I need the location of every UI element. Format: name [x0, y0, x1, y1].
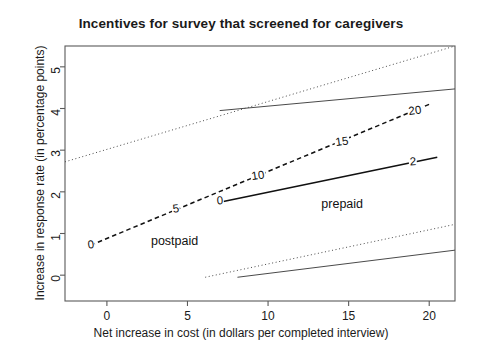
point-label-prepaid-2: 2: [408, 156, 417, 168]
point-label-postpaid-15: 15: [334, 135, 350, 148]
point-label-postpaid-0: 0: [86, 239, 96, 252]
axis-ticks: [60, 67, 429, 306]
x-tick-label: 10: [261, 309, 274, 323]
x-tick-label: 20: [423, 309, 436, 323]
point-label-prepaid-0: 0: [215, 195, 224, 207]
x-tick-label: 5: [184, 309, 191, 323]
y-tick-label: 0: [49, 275, 63, 282]
y-tick-label: 1: [49, 234, 63, 241]
chart-plot-area: [0, 0, 482, 351]
y-tick-label: 2: [49, 192, 63, 199]
x-tick-label: 15: [342, 309, 355, 323]
point-label-postpaid-10: 10: [250, 169, 266, 182]
y-tick-label: 3: [49, 150, 63, 157]
chart-figure: Incentives for survey that screened for …: [0, 0, 482, 351]
point-label-postpaid-5: 5: [171, 203, 181, 216]
series-label-postpaid: postpaid: [151, 234, 198, 248]
prepaid-lower-bound: [237, 250, 455, 277]
y-tick-label: 4: [49, 109, 63, 116]
confidence-bands: [65, 46, 455, 277]
y-tick-label: 5: [49, 67, 63, 74]
postpaid-lower-bound: [205, 224, 455, 277]
series-label-prepaid: prepaid: [321, 197, 363, 211]
x-tick-label: 0: [104, 309, 111, 323]
postpaid-upper-bound: [65, 46, 455, 162]
